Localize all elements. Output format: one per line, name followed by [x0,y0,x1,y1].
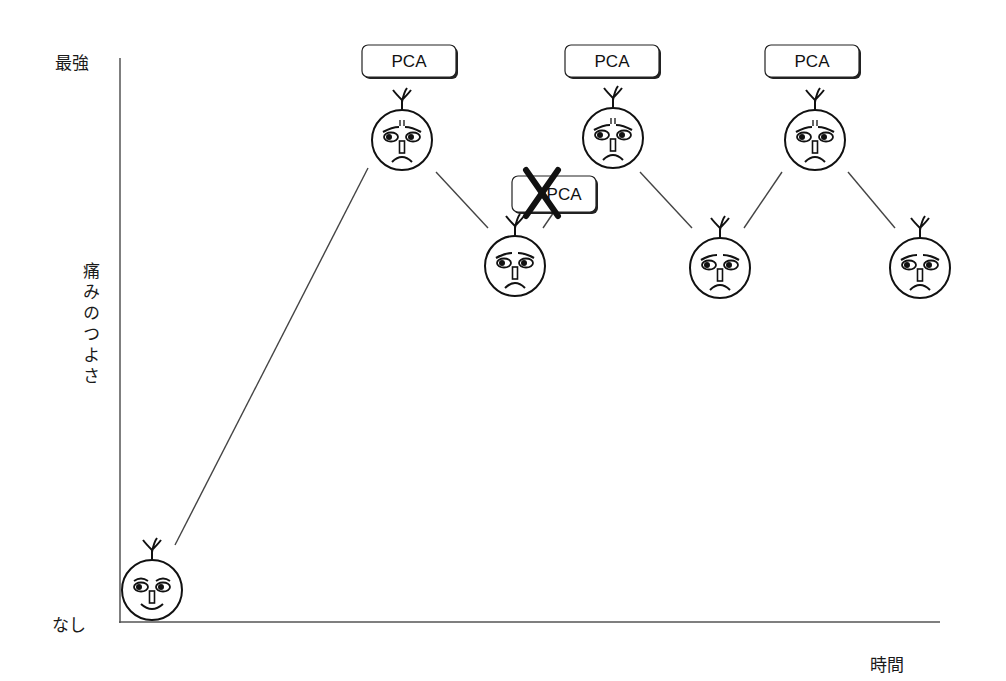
pca-box-crossed: PCA [512,170,598,216]
face-pain-icon [583,86,643,168]
pca-label: PCA [595,52,631,71]
y-min-label: なし [52,611,86,636]
face-moderate-icon [485,214,545,296]
face-moderate-icon [890,216,950,298]
trend-segment [848,172,895,228]
pca-box: PCA [362,45,458,79]
face-happy-icon [122,538,182,620]
trend-segment [175,168,368,545]
pca-box: PCA [765,45,861,79]
face-markers [122,86,950,620]
y-axis-title: 痛みのつよさ [78,262,103,388]
pca-box: PCA [565,45,661,79]
x-axis-title: 時間 [870,651,904,676]
pca-label: PCA [392,52,428,71]
pain-chart: PCAPCAPCAPCA [0,0,1006,681]
pca-label: PCA [795,52,831,71]
face-pain-icon [785,88,845,170]
pca-label: PCA [547,185,583,204]
trend-segment [436,172,488,228]
face-pain-icon [372,88,432,170]
face-moderate-icon [690,216,750,298]
trend-segment [640,172,692,228]
y-max-label: 最強 [55,49,89,74]
trend-segment [744,172,782,228]
pain-trend-lines [175,168,895,545]
